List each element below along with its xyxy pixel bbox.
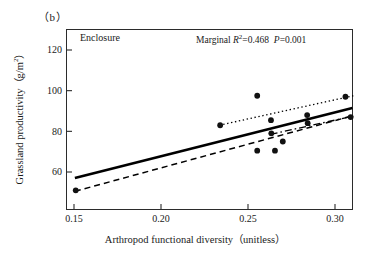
y-axis-unit-exponent: 2 [12, 59, 20, 63]
x-tick-015: 0.15 [54, 213, 94, 224]
x-tick-labels: 0.15 0.20 0.25 0.30 [0, 213, 390, 229]
figure-panel-b: （b） Enclosure Marginal R2=0.468 P=0.001 … [0, 0, 390, 258]
x-tick-030: 0.30 [315, 213, 355, 224]
y-axis-title-text: Grassland productivity（g/m [14, 62, 25, 184]
y-tick-100: 100 [26, 85, 62, 96]
plot-frame [66, 29, 353, 210]
y-axis-title-tail: ） [14, 49, 25, 59]
y-tick-80: 80 [26, 126, 62, 137]
x-axis-title-text: Arthropod functional diversity（unitless） [105, 234, 285, 245]
x-tick-025: 0.25 [228, 213, 268, 224]
y-axis-title: Grassland productivity（g/m2） [11, 22, 26, 212]
y-tick-120: 120 [26, 44, 62, 55]
y-tick-60: 60 [26, 166, 62, 177]
x-tick-020: 0.20 [141, 213, 181, 224]
x-axis-title: Arthropod functional diversity（unitless） [0, 231, 390, 246]
